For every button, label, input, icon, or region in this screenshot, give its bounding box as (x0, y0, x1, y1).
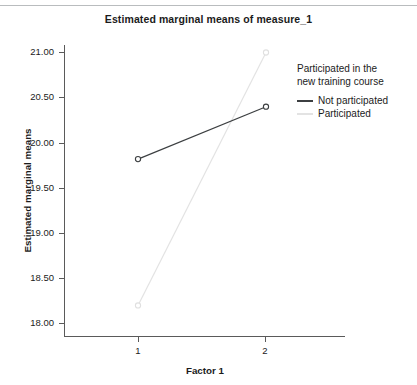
legend-label-participated: Participated (318, 108, 371, 119)
data-point-not-participated-2 (263, 104, 268, 109)
series-line-not-participated (138, 107, 266, 159)
legend-swatch-participated (297, 113, 313, 115)
legend-swatch-not-participated (297, 100, 313, 102)
legend-title-line-2: new training course (297, 75, 415, 88)
y-tick-label-21: 21.00 (8, 46, 54, 57)
plot-canvas (0, 0, 417, 385)
legend-item-participated[interactable]: Participated (297, 107, 415, 120)
x-tick-label-1: 1 (126, 345, 150, 356)
x-axis-title: Factor 1 (64, 365, 346, 376)
data-point-participated-1 (135, 303, 140, 308)
data-point-not-participated-1 (135, 156, 140, 161)
x-tick-label-2: 2 (253, 345, 277, 356)
legend-title: Participated in the new training course (297, 62, 415, 88)
legend-item-not-participated[interactable]: Not participated (297, 94, 415, 107)
legend: Participated in the new training course … (297, 62, 415, 120)
y-axis-title: Estimated marginal means (22, 91, 33, 291)
y-tick-label-18: 18.00 (8, 317, 54, 328)
series-line-participated (138, 53, 266, 306)
legend-label-not-participated: Not participated (318, 95, 388, 106)
data-point-participated-2 (263, 50, 268, 55)
legend-title-line-1: Participated in the (297, 62, 415, 75)
chart-figure: Estimated marginal means of measure_1 21… (0, 0, 417, 385)
